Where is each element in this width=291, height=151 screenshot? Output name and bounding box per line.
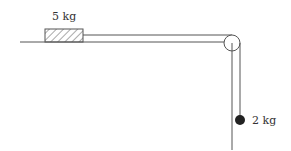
hanging-mass-2kg [235,115,245,125]
pulley-diagram: 5 kg 2 kg [0,0,291,151]
block-5kg [45,29,83,42]
hanging-mass-label: 2 kg [252,114,276,127]
block-label: 5 kg [52,10,76,23]
